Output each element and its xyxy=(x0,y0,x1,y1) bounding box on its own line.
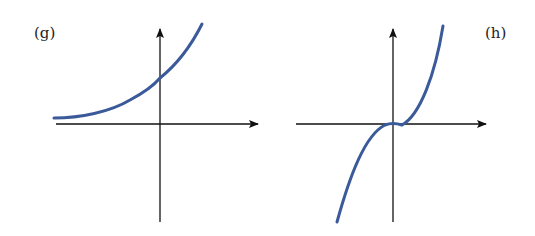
panel-label-g: (g) xyxy=(34,24,55,42)
panel-g xyxy=(54,24,258,222)
panel-h xyxy=(296,26,486,222)
curve-g xyxy=(54,24,202,118)
panel-label-h: (h) xyxy=(485,24,506,42)
graphs-canvas xyxy=(0,0,535,236)
